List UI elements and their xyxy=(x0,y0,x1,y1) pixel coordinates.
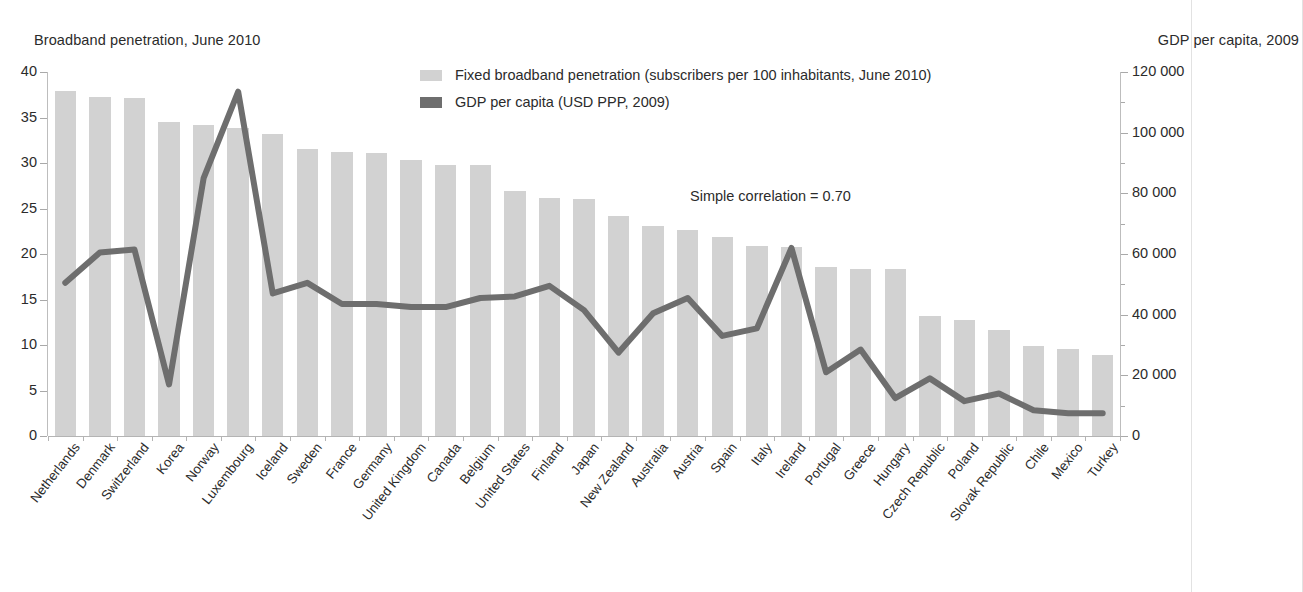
bar-series xyxy=(48,72,1120,436)
legend-swatch-broadband xyxy=(420,70,442,81)
right-tick-label: 60 000 xyxy=(1132,246,1176,261)
x-tick-mark xyxy=(1120,436,1121,441)
category-label: Slovak Republic xyxy=(947,440,1017,524)
plot-area: 0510152025303540 020 00040 00060 00080 0… xyxy=(48,72,1120,436)
bar xyxy=(470,165,491,436)
left-tick-label: 25 xyxy=(21,201,37,216)
bar xyxy=(124,98,145,436)
x-axis-baseline xyxy=(48,436,1120,437)
bar xyxy=(297,149,318,436)
legend-item-gdp: GDP per capita (USD PPP, 2009) xyxy=(420,90,931,114)
category-label: Chile xyxy=(1021,440,1051,473)
bar xyxy=(504,191,525,436)
left-axis-title: Broadband penetration, June 2010 xyxy=(34,32,261,48)
category-label: Netherlands xyxy=(28,440,84,505)
legend-label-gdp: GDP per capita (USD PPP, 2009) xyxy=(455,94,670,110)
category-label: Japan xyxy=(568,440,602,478)
left-tick-label: 5 xyxy=(29,383,37,398)
left-tick-mark xyxy=(40,254,47,255)
right-minor-tick-mark xyxy=(1121,102,1125,103)
bar xyxy=(677,230,698,436)
bar xyxy=(539,198,560,436)
left-tick-mark xyxy=(40,300,47,301)
bar xyxy=(193,125,214,436)
bar xyxy=(435,165,456,436)
bar xyxy=(227,128,248,436)
bar xyxy=(781,247,802,436)
right-axis-title: GDP per capita, 2009 xyxy=(1158,32,1299,48)
left-tick-mark xyxy=(40,118,47,119)
category-label: Italy xyxy=(748,440,775,468)
correlation-annotation: Simple correlation = 0.70 xyxy=(690,188,851,204)
bar xyxy=(642,226,663,436)
right-minor-tick-mark xyxy=(1121,284,1125,285)
bar xyxy=(1057,349,1078,436)
right-tick-mark xyxy=(1121,436,1128,437)
bar xyxy=(988,330,1009,436)
category-label: Finland xyxy=(529,440,567,483)
bar xyxy=(1023,346,1044,436)
category-label: Turkey xyxy=(1084,440,1120,481)
right-tick-label: 0 xyxy=(1132,428,1140,443)
bar xyxy=(55,91,76,436)
legend-item-broadband: Fixed broadband penetration (subscribers… xyxy=(420,63,931,87)
right-tick-label: 40 000 xyxy=(1132,307,1176,322)
bar xyxy=(919,316,940,436)
category-label: United Kingdom xyxy=(359,440,429,523)
right-tick-label: 20 000 xyxy=(1132,367,1176,382)
bar xyxy=(712,237,733,436)
bar xyxy=(573,199,594,436)
left-tick-label: 10 xyxy=(21,337,37,352)
bar xyxy=(850,269,871,436)
bar xyxy=(885,269,906,436)
left-tick-mark xyxy=(40,436,47,437)
right-tick-mark xyxy=(1121,315,1128,316)
right-minor-tick-mark xyxy=(1121,406,1125,407)
category-axis-labels: NetherlandsDenmarkSwitzerlandKoreaNorway… xyxy=(48,440,1120,580)
bar xyxy=(815,267,836,436)
left-tick-label: 35 xyxy=(21,110,37,125)
category-label: Korea xyxy=(153,440,186,477)
legend-label-broadband: Fixed broadband penetration (subscribers… xyxy=(455,67,931,83)
category-label: Austria xyxy=(668,440,705,482)
right-tick-label: 120 000 xyxy=(1132,64,1184,79)
bar xyxy=(1092,355,1113,436)
bar xyxy=(608,216,629,436)
left-tick-label: 30 xyxy=(21,155,37,170)
right-tick-label: 100 000 xyxy=(1132,125,1184,140)
right-tick-mark xyxy=(1121,72,1128,73)
page-guide-line xyxy=(1191,0,1192,592)
left-tick-label: 20 xyxy=(21,246,37,261)
legend-swatch-gdp xyxy=(420,97,442,108)
category-label: Czech Republic xyxy=(879,440,948,522)
bar xyxy=(746,246,767,436)
bar xyxy=(262,134,283,436)
left-tick-mark xyxy=(40,345,47,346)
chart-legend: Fixed broadband penetration (subscribers… xyxy=(420,63,931,117)
category-label: Sweden xyxy=(284,440,325,487)
left-tick-label: 0 xyxy=(29,428,37,443)
left-tick-mark xyxy=(40,209,47,210)
bar xyxy=(158,122,179,436)
bar xyxy=(954,320,975,436)
right-tick-mark xyxy=(1121,133,1128,134)
right-tick-mark xyxy=(1121,193,1128,194)
bar xyxy=(366,153,387,436)
category-label: Portugal xyxy=(802,440,844,488)
right-tick-label: 80 000 xyxy=(1132,185,1176,200)
right-tick-mark xyxy=(1121,254,1128,255)
bar xyxy=(89,97,110,436)
right-tick-mark xyxy=(1121,375,1128,376)
category-label: Spain xyxy=(708,440,741,476)
left-tick-mark xyxy=(40,72,47,73)
bar xyxy=(400,160,421,436)
left-tick-mark xyxy=(40,391,47,392)
category-label: Mexico xyxy=(1048,440,1086,482)
bar xyxy=(331,152,352,436)
left-tick-label: 15 xyxy=(21,292,37,307)
left-tick-mark xyxy=(40,163,47,164)
right-minor-tick-mark xyxy=(1121,345,1125,346)
chart-page: Broadband penetration, June 2010 GDP per… xyxy=(0,0,1303,592)
right-minor-tick-mark xyxy=(1121,163,1125,164)
right-minor-tick-mark xyxy=(1121,224,1125,225)
